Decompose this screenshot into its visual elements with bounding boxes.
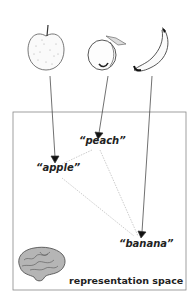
label-banana: “banana” (119, 238, 174, 249)
brain-icon (19, 247, 65, 281)
apple-icon (28, 25, 64, 70)
peach-icon (88, 36, 126, 70)
label-peach: “peach” (79, 135, 126, 146)
label-apple: “apple” (36, 162, 80, 173)
caption-representation-space: representation space (69, 275, 183, 286)
mapping-arrows (50, 76, 152, 238)
banana-icon (134, 27, 168, 71)
diagram-canvas (0, 0, 196, 304)
